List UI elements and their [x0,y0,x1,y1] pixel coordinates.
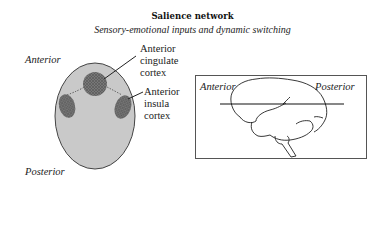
left-posterior-label: Posterior [25,166,65,178]
anterior-cingulate-region [83,72,107,96]
cingulate-label: Anterior cingulate cortex [140,43,178,79]
right-posterior-label: Posterior [315,81,355,93]
left-anterior-label: Anterior [25,54,61,66]
insula-label: Anterior insula cortex [144,86,180,122]
right-anterior-label: Anterior [200,81,236,93]
